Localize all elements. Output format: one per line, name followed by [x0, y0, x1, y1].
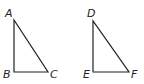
- triangle-abc-shape: [14, 20, 48, 72]
- vertex-label-c: C: [50, 68, 58, 81]
- triangle-def-shape: [93, 21, 129, 72]
- vertex-label-f: F: [131, 68, 138, 81]
- vertex-label-e: E: [83, 68, 90, 81]
- triangles-diagram: A B C D E F: [0, 0, 144, 84]
- vertex-label-d: D: [87, 7, 95, 20]
- vertex-label-a: A: [4, 7, 13, 20]
- triangle-abc: A B C: [3, 7, 58, 81]
- triangle-def: D E F: [83, 7, 138, 81]
- vertex-label-b: B: [3, 68, 11, 81]
